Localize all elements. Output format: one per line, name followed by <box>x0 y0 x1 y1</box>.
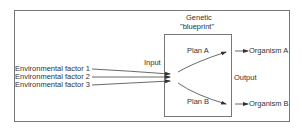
blueprint-title-line2: "blueprint" <box>180 23 214 31</box>
plan-a-curve <box>178 52 226 72</box>
organism-b-label: Organism B <box>249 100 289 108</box>
factor-3-label: Environmental factor 3 <box>15 81 90 89</box>
input-label: Input <box>144 59 161 67</box>
organism-a-label: Organism A <box>249 47 288 55</box>
plan-a-label: Plan A <box>187 47 209 55</box>
output-label: Output <box>234 74 257 82</box>
blueprint-title-line1: Genetic <box>186 14 212 22</box>
factor-3-arrow <box>92 81 170 85</box>
factor-1-arrow <box>92 69 170 74</box>
plan-b-label: Plan B <box>187 98 209 106</box>
